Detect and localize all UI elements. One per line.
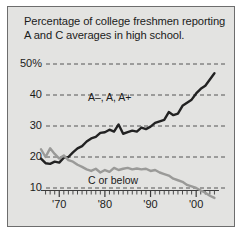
x-axis-tick-label: '80 — [88, 198, 122, 210]
x-axis-ticks — [46, 191, 215, 197]
y-axis-tick-label: 50% — [8, 57, 42, 69]
x-axis-tick-label: '90 — [134, 198, 168, 210]
series-line-a-averages — [41, 73, 214, 164]
series-label-c-or-below: C or below — [88, 174, 138, 186]
chart-figure: Percentage of college freshmen reporting… — [7, 6, 235, 227]
y-axis-tick-label: 40 — [8, 88, 42, 100]
y-axis-tick-label: 10 — [8, 181, 42, 193]
chart-plot-area — [8, 7, 236, 228]
y-axis-tick-label: 30 — [8, 119, 42, 131]
x-axis-tick-label: '00 — [179, 198, 213, 210]
series-label-a-averages: A–, A, A+ — [88, 91, 132, 103]
y-axis-tick-label: 20 — [8, 150, 42, 162]
x-axis-tick-label: '70 — [42, 198, 76, 210]
